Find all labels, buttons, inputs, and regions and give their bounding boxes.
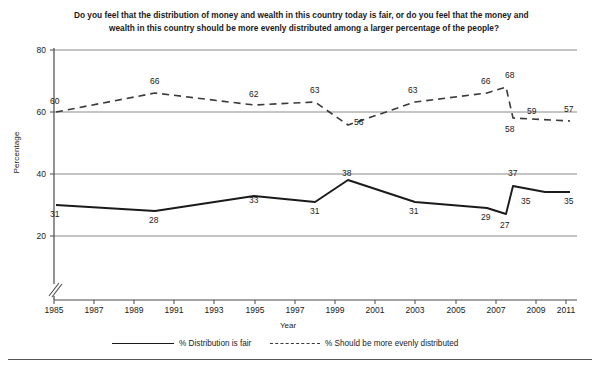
x-tick-label-2001: 2001 bbox=[360, 305, 390, 315]
data-label-fair-2007: 29 bbox=[481, 212, 490, 222]
data-label-even-1985: 60 bbox=[50, 96, 59, 106]
source-divider bbox=[8, 359, 592, 360]
data-label-even-2010: 59 bbox=[527, 106, 536, 116]
data-label-fair-2003: 31 bbox=[409, 206, 418, 216]
data-label-even-2008: 68 bbox=[505, 70, 514, 80]
y-tick-label-80: 80 bbox=[26, 45, 46, 55]
legend-entry-should-be-more-evenly-distributed: % Should be more evenly distributed bbox=[270, 336, 458, 350]
x-tick-label-1987: 1987 bbox=[79, 305, 109, 315]
x-tick-label-1989: 1989 bbox=[119, 305, 149, 315]
x-tick-label-2009: 2009 bbox=[521, 305, 551, 315]
data-label-even-2003: 63 bbox=[408, 85, 417, 95]
data-label-fair-2008: 27 bbox=[500, 220, 509, 230]
data-label-even-1998: 63 bbox=[310, 85, 319, 95]
data-label-even-2007: 66 bbox=[481, 76, 490, 86]
y-tick-label-60: 60 bbox=[26, 107, 46, 117]
y-tick-label-40: 40 bbox=[26, 169, 46, 179]
x-tick-label-1985: 1985 bbox=[39, 305, 69, 315]
legend-entry-distribution-is-fair: % Distribution is fair bbox=[112, 336, 251, 350]
chart-legend: % Distribution is fair % Should be more … bbox=[112, 336, 512, 352]
x-tick-label-2011: 2011 bbox=[551, 305, 581, 315]
x-axis-title: Year bbox=[280, 321, 296, 330]
data-label-fair-2009: 37 bbox=[508, 168, 517, 178]
x-tick-label-1997: 1997 bbox=[280, 305, 310, 315]
data-label-fair-2011: 35 bbox=[564, 196, 573, 206]
data-label-fair-1985: 31 bbox=[50, 209, 59, 219]
x-tick-label-1995: 1995 bbox=[240, 305, 270, 315]
data-label-even-1996: 62 bbox=[249, 89, 258, 99]
y-tick-label-20: 20 bbox=[26, 231, 46, 241]
data-label-fair-2001: 38 bbox=[342, 168, 351, 178]
dashed-line-icon bbox=[270, 343, 320, 344]
x-tick-label-1993: 1993 bbox=[199, 305, 229, 315]
data-label-fair-1990: 28 bbox=[149, 215, 158, 225]
data-label-even-2009: 58 bbox=[505, 124, 514, 134]
solid-line-icon bbox=[112, 343, 174, 344]
x-tick-label-2005: 2005 bbox=[441, 305, 471, 315]
data-label-even-1990: 66 bbox=[150, 76, 159, 86]
data-label-fair-2010: 35 bbox=[521, 196, 530, 206]
x-tick-label-2007: 2007 bbox=[481, 305, 511, 315]
chart-figure: Do you feel that the distribution of mon… bbox=[0, 0, 600, 369]
legend-label-distribution-is-fair: % Distribution is fair bbox=[179, 339, 251, 348]
data-label-fair-1998: 31 bbox=[310, 206, 319, 216]
data-label-even-2000: 56 bbox=[354, 117, 363, 127]
x-tick-label-1999: 1999 bbox=[320, 305, 350, 315]
data-label-even-2011: 57 bbox=[564, 104, 573, 114]
x-tick-label-2003: 2003 bbox=[400, 305, 430, 315]
data-label-fair-1996: 33 bbox=[249, 195, 258, 205]
y-axis-title: Percentage bbox=[12, 121, 21, 185]
x-tick-label-1991: 1991 bbox=[159, 305, 189, 315]
legend-label-should-be-more-evenly-distributed: % Should be more evenly distributed bbox=[325, 339, 458, 348]
